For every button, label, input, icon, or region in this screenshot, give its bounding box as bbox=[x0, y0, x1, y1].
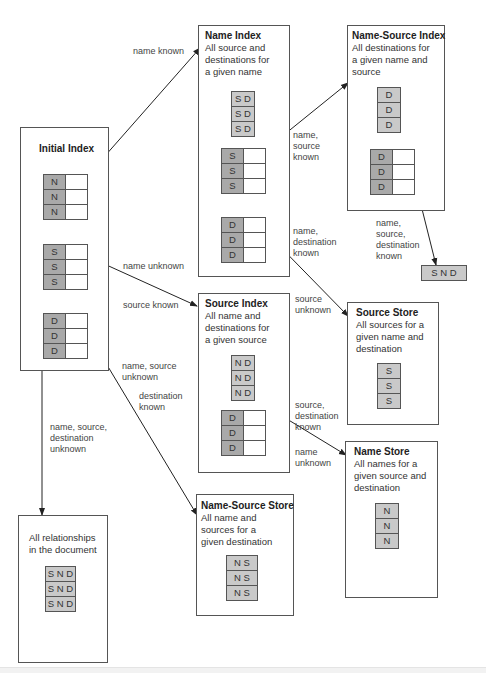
name-source-store-description: All name and sources for a given destina… bbox=[201, 512, 272, 548]
source-index-description: All name and destinations for a given so… bbox=[205, 310, 269, 346]
source-index-box: Source Index All name and destinations f… bbox=[198, 293, 290, 473]
pointer-cell bbox=[65, 189, 88, 205]
value-cell: S bbox=[377, 378, 401, 394]
value-cell: N bbox=[375, 518, 399, 534]
all-relationships-box: All relationships in the document S N D … bbox=[18, 515, 108, 663]
source-store-box: Source Store All sources for a given nam… bbox=[347, 302, 439, 425]
index-key-cell: S bbox=[43, 259, 66, 275]
edge-label-name-source-unknown: name, source unknown bbox=[122, 361, 177, 383]
edge-label-source-destination-known: source, destination known bbox=[295, 400, 339, 433]
value-cell: S bbox=[377, 363, 401, 379]
pointer-cell bbox=[392, 179, 415, 195]
name-store-box: Name Store All names for a given source … bbox=[345, 441, 438, 598]
pointer-cell bbox=[65, 259, 88, 275]
value-cell: D bbox=[377, 117, 401, 133]
edge-label-all-known: name, source, destination known bbox=[376, 218, 420, 262]
index-key-cell: S bbox=[43, 274, 66, 290]
value-cell: N S bbox=[226, 585, 258, 601]
pointer-cell bbox=[65, 204, 88, 220]
value-cell: N bbox=[375, 533, 399, 549]
edge-label-name-source-known: name, source known bbox=[293, 130, 320, 163]
index-key-cell: D bbox=[221, 247, 244, 263]
source-store-description: All sources for a given name and destina… bbox=[356, 319, 424, 355]
index-key-cell: D bbox=[221, 217, 244, 233]
source-store-title: Source Store bbox=[356, 307, 418, 318]
index-key-cell: S bbox=[221, 163, 244, 179]
initial-index-box: Initial Index N N N S S S D D D bbox=[20, 127, 109, 371]
value-cell: S D bbox=[231, 91, 255, 107]
index-key-cell: D bbox=[221, 410, 244, 426]
value-cell: N D bbox=[231, 355, 255, 371]
pointer-cell bbox=[243, 425, 266, 441]
pointer-cell bbox=[243, 440, 266, 456]
pointer-cell bbox=[243, 163, 266, 179]
edge-label-destination-known: destination known bbox=[139, 391, 183, 413]
name-source-store-title: Name-Source Store bbox=[201, 500, 294, 511]
index-key-cell: D bbox=[43, 328, 66, 344]
snd-result-cell: S N D bbox=[421, 265, 467, 281]
initial-index-title: Initial Index bbox=[39, 143, 94, 154]
pointer-cell bbox=[243, 217, 266, 233]
value-cell: N S bbox=[226, 555, 258, 571]
pointer-cell bbox=[65, 343, 88, 359]
value-cell: N S bbox=[226, 570, 258, 586]
name-source-index-box: Name-Source Index All destinations for a… bbox=[347, 25, 445, 211]
value-cell: N bbox=[375, 503, 399, 519]
index-key-cell: D bbox=[43, 343, 66, 359]
edge-label-name-destination-known: name, destination known bbox=[293, 226, 337, 259]
pointer-cell bbox=[243, 410, 266, 426]
name-source-index-title: Name-Source Index bbox=[352, 30, 445, 41]
pointer-cell bbox=[392, 164, 415, 180]
bottom-edge bbox=[0, 667, 486, 673]
all-relationships-description: All relationships in the document bbox=[29, 532, 97, 556]
value-cell: S D bbox=[231, 106, 255, 122]
value-cell: N D bbox=[231, 370, 255, 386]
value-cell: S bbox=[377, 393, 401, 409]
pointer-cell bbox=[243, 247, 266, 263]
pointer-cell bbox=[65, 274, 88, 290]
index-key-cell: D bbox=[221, 232, 244, 248]
edge-label-source-unknown: source unknown bbox=[295, 294, 331, 316]
edge-label-name-unknown: name unknown bbox=[123, 261, 184, 272]
pointer-cell bbox=[243, 232, 266, 248]
pointer-cell bbox=[243, 178, 266, 194]
index-key-cell: N bbox=[43, 204, 66, 220]
index-key-cell: N bbox=[43, 189, 66, 205]
name-store-title: Name Store bbox=[354, 446, 410, 457]
index-key-cell: S bbox=[221, 148, 244, 164]
value-cell: S N D bbox=[45, 566, 76, 582]
value-cell: S D bbox=[231, 121, 255, 137]
edge-label-name-unknown-2: name unknown bbox=[295, 447, 331, 469]
edge-label-all-unknown: name, source, destination unknown bbox=[50, 422, 107, 455]
name-index-box: Name Index All source and destinations f… bbox=[198, 25, 290, 277]
name-index-title: Name Index bbox=[205, 30, 261, 41]
index-key-cell: S bbox=[221, 178, 244, 194]
pointer-cell bbox=[243, 148, 266, 164]
value-cell: D bbox=[377, 87, 401, 103]
name-source-index-description: All destinations for a given name and so… bbox=[352, 42, 430, 78]
pointer-cell bbox=[65, 313, 88, 329]
index-key-cell: D bbox=[370, 164, 393, 180]
edge-label-source-known: source known bbox=[123, 300, 179, 311]
value-cell: D bbox=[377, 102, 401, 118]
pointer-cell bbox=[65, 244, 88, 260]
index-key-cell: D bbox=[221, 425, 244, 441]
name-source-store-box: Name-Source Store All name and sources f… bbox=[196, 494, 294, 616]
index-key-cell: D bbox=[43, 313, 66, 329]
index-key-cell: D bbox=[370, 179, 393, 195]
name-index-description: All source and destinations for a given … bbox=[205, 42, 269, 78]
value-cell: N D bbox=[231, 385, 255, 401]
edge-label-name-known: name known bbox=[133, 46, 184, 57]
name-store-description: All names for a given source and destina… bbox=[354, 458, 426, 494]
value-cell: S N D bbox=[45, 596, 76, 612]
index-key-cell: D bbox=[221, 440, 244, 456]
pointer-cell bbox=[65, 174, 88, 190]
pointer-cell bbox=[65, 328, 88, 344]
source-index-title: Source Index bbox=[205, 298, 268, 309]
index-key-cell: D bbox=[370, 149, 393, 165]
value-cell: S N D bbox=[45, 581, 76, 597]
index-key-cell: S bbox=[43, 244, 66, 260]
index-key-cell: N bbox=[43, 174, 66, 190]
pointer-cell bbox=[392, 149, 415, 165]
